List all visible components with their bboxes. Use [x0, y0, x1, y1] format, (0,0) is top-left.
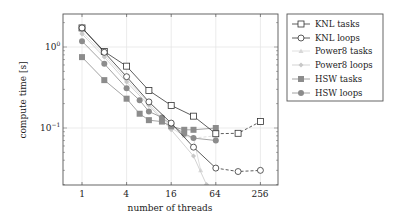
- data-point: [213, 138, 219, 144]
- data-point: [146, 108, 152, 114]
- data-point: [124, 96, 130, 102]
- data-point: [146, 117, 152, 123]
- data-point: [124, 85, 130, 91]
- data-point: [257, 119, 263, 125]
- data-point: [181, 131, 187, 137]
- legend-marker: [298, 76, 304, 82]
- data-point: [213, 165, 219, 171]
- data-point: [159, 114, 165, 120]
- data-point: [257, 167, 263, 173]
- axes-frame: [63, 14, 278, 185]
- legend-label-power8-tasks: Power8 tasks: [315, 46, 372, 56]
- data-point: [191, 135, 197, 141]
- chart: 1 4 16 64 256 100 10−1 number of threads…: [0, 0, 397, 221]
- y-tick-1e-1: 10−1: [40, 121, 60, 133]
- legend-marker: [298, 35, 304, 41]
- data-point: [146, 99, 152, 105]
- data-point: [124, 74, 130, 80]
- legend-label-knl-loops: KNL loops: [315, 33, 360, 43]
- x-tick-64: 64: [209, 189, 221, 199]
- data-point: [137, 97, 143, 103]
- x-tick-4: 4: [123, 189, 129, 199]
- data-point: [168, 102, 174, 108]
- legend-marker: [298, 21, 304, 27]
- data-point: [191, 144, 197, 150]
- x-tick-1: 1: [79, 189, 85, 199]
- legend-label-hsw-tasks: HSW tasks: [315, 74, 362, 84]
- data-point: [79, 25, 85, 31]
- data-point: [146, 88, 152, 94]
- legend-label-power8-loops: Power8 loops: [315, 60, 373, 70]
- x-tick-16: 16: [165, 189, 177, 199]
- legend-label-knl-tasks: KNL tasks: [315, 19, 360, 29]
- data-point: [137, 111, 143, 117]
- data-point: [101, 77, 107, 83]
- data-point: [213, 131, 219, 137]
- y-axis-label: compute time [s]: [18, 61, 28, 138]
- data-point: [168, 120, 174, 126]
- series-power8-loops: [80, 31, 210, 187]
- data-point: [235, 169, 241, 175]
- legend-label-hsw-loops: HSW loops: [315, 88, 362, 98]
- legend-marker: [298, 90, 304, 96]
- data-point: [101, 61, 107, 67]
- x-tick-256: 256: [251, 189, 268, 199]
- x-axis-label: number of threads: [128, 203, 213, 213]
- data-point: [79, 54, 85, 60]
- y-tick-1e0: 100: [45, 40, 60, 52]
- data-point: [191, 127, 197, 133]
- grid: [63, 14, 278, 185]
- data-point: [101, 49, 107, 55]
- data-point: [235, 130, 241, 136]
- data-point: [124, 63, 130, 69]
- data-point: [213, 125, 219, 131]
- data-point: [79, 38, 85, 44]
- data-point: [191, 113, 197, 119]
- legend: KNL tasks KNL loops Power8 tasks Power8 …: [287, 14, 383, 101]
